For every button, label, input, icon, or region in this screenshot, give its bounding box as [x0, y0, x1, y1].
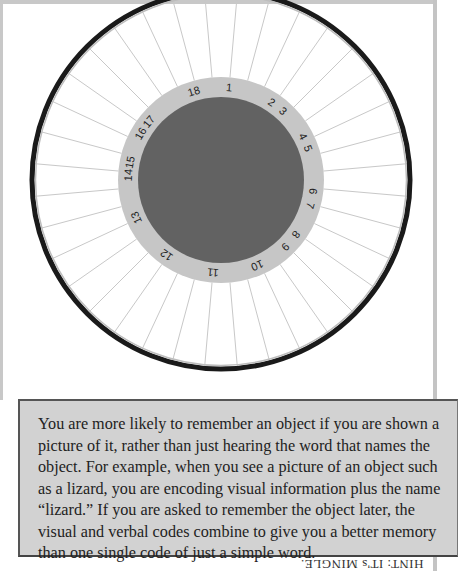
wheel-spoke	[314, 100, 392, 136]
wheel-spoke	[305, 72, 375, 121]
wheel-spoke	[87, 46, 148, 107]
info-text: You are more likely to remember an objec…	[38, 414, 443, 565]
wheel-spoke	[141, 273, 177, 351]
wheel-spoke	[33, 164, 119, 171]
wheel-spoke	[265, 273, 301, 351]
wheel-number-label: 1	[226, 81, 233, 93]
wheel-spoke	[305, 239, 375, 288]
wheel-spoke	[50, 100, 128, 136]
wheel-spoke	[87, 253, 148, 314]
wheel-spoke	[141, 9, 177, 87]
wheel-spoke	[280, 25, 329, 95]
wheel-spoke	[265, 9, 301, 87]
wheel-spoke	[248, 279, 270, 362]
wheel-spoke	[324, 189, 410, 196]
wheel-spoke	[172, 279, 194, 362]
wheel-spoke	[280, 264, 329, 334]
wheel-spoke	[294, 253, 355, 314]
wheel-spoke	[324, 164, 410, 171]
wheel-spoke	[314, 224, 392, 260]
wheel-number-label: 14	[122, 169, 135, 182]
wheel-spoke	[113, 264, 162, 334]
wheel-number-label: 11	[207, 266, 219, 279]
wheel-spoke	[230, 0, 237, 77]
wheel-spoke	[33, 189, 119, 196]
center-disk	[138, 97, 304, 263]
wheel-spoke	[320, 131, 403, 153]
wheel-spoke	[205, 283, 212, 369]
wheel-spoke	[320, 207, 403, 229]
upside-down-hint: HINT: IT's MINGLE.	[292, 556, 432, 571]
wheel-spoke	[38, 207, 121, 229]
wheel-spoke	[248, 0, 270, 81]
wheel-spoke	[66, 239, 136, 288]
wheel-spoke	[294, 46, 355, 107]
wheel-spoke	[205, 0, 212, 77]
wheel-spoke	[230, 283, 237, 369]
wheel-spoke	[113, 25, 162, 95]
info-box: You are more likely to remember an objec…	[18, 399, 458, 557]
wheel-spoke	[172, 0, 194, 81]
memory-wheel: 123456789101112131415161718	[0, 0, 452, 400]
wheel-spoke	[38, 131, 121, 153]
wheel-spoke	[66, 72, 136, 121]
wheel-spoke	[50, 224, 128, 260]
wheel-number-label: 15	[123, 155, 137, 169]
